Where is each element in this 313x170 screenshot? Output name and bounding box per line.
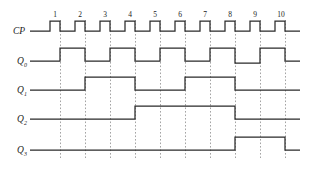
signal-label-q3-subscript: 3 — [23, 151, 27, 157]
signal-labels: CP Q 0 Q 1 Q 2 Q 3 — [13, 26, 27, 157]
waveform-cp — [30, 21, 300, 31]
signal-label-q1: Q — [17, 85, 24, 95]
timing-diagram-canvas: 1 2 3 4 5 6 7 8 9 10 CP Q 0 Q 1 Q 2 Q 3 — [0, 0, 313, 170]
signal-label-q3: Q — [17, 145, 24, 155]
tick-label: 1 — [53, 10, 57, 19]
signal-label-cp: CP — [13, 26, 25, 36]
timing-diagram: 1 2 3 4 5 6 7 8 9 10 CP Q 0 Q 1 Q 2 Q 3 — [0, 0, 313, 170]
tick-label: 6 — [178, 10, 182, 19]
signal-label-q1-subscript: 1 — [24, 91, 27, 97]
tick-label: 4 — [128, 10, 132, 19]
signal-label-q2-subscript: 2 — [24, 120, 27, 126]
signal-label-q2: Q — [17, 114, 24, 124]
clock-tick-labels: 1 2 3 4 5 6 7 8 9 10 — [53, 10, 285, 19]
signal-label-q0: Q — [17, 56, 24, 66]
tick-label: 7 — [203, 10, 207, 19]
tick-label: 10 — [277, 10, 285, 19]
tick-label: 8 — [228, 10, 232, 19]
waveform-q0 — [30, 48, 300, 63]
waveform-q1 — [30, 77, 300, 90]
waveform-q2 — [30, 106, 300, 119]
waveform-q3 — [30, 137, 300, 150]
signal-label-q0-subscript: 0 — [24, 62, 27, 68]
tick-label: 2 — [78, 10, 82, 19]
tick-label: 3 — [103, 10, 107, 19]
tick-label: 9 — [253, 10, 257, 19]
tick-label: 5 — [153, 10, 157, 19]
